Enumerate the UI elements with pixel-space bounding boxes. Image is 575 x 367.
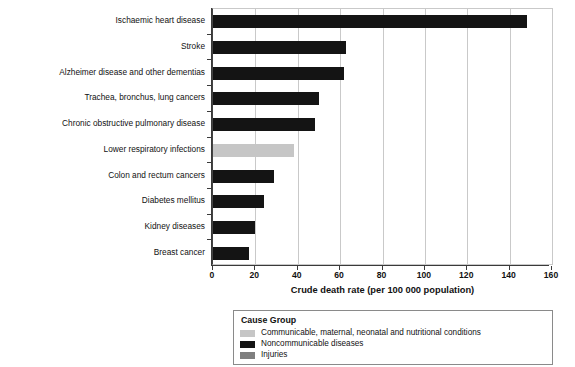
bar [213, 92, 319, 105]
legend-item: Communicable, maternal, neonatal and nut… [240, 328, 546, 338]
legend-label: Injuries [261, 351, 287, 359]
bar [213, 247, 249, 260]
legend-item: Injuries [240, 350, 546, 360]
bar-series [213, 9, 552, 264]
y-tick [207, 34, 211, 35]
category-label: Alzheimer disease and other dementias [0, 68, 205, 76]
bar [213, 144, 294, 157]
x-tick-label: 40 [292, 271, 302, 280]
legend-items: Communicable, maternal, neonatal and nut… [240, 328, 546, 360]
legend-label: Noncommunicable diseases [261, 340, 363, 348]
category-label: Colon and rectum cancers [0, 171, 205, 179]
x-tick-label: 0 [210, 271, 215, 280]
y-tick [207, 239, 211, 240]
category-label: Stroke [0, 42, 205, 50]
category-label: Kidney diseases [0, 222, 205, 230]
legend-swatch [240, 341, 255, 348]
y-tick [207, 137, 211, 138]
category-label: Chronic obstructive pulmonary disease [0, 119, 205, 127]
bar [213, 195, 264, 208]
y-tick [207, 59, 211, 60]
legend-label: Communicable, maternal, neonatal and nut… [261, 329, 481, 337]
bar [213, 67, 344, 80]
x-tick-label: 60 [334, 271, 344, 280]
legend-swatch [240, 352, 255, 359]
y-tick [207, 111, 211, 112]
gridline-160 [552, 9, 553, 264]
x-tick-label: 20 [250, 271, 260, 280]
chart-figure: Ischaemic heart diseaseStrokeAlzheimer d… [0, 0, 575, 367]
bar [213, 118, 315, 131]
legend-box: Cause Group Communicable, maternal, neon… [233, 310, 553, 365]
category-label: Breast cancer [0, 248, 205, 256]
y-axis-category-labels: Ischaemic heart diseaseStrokeAlzheimer d… [0, 8, 205, 265]
x-tick-label: 100 [417, 271, 431, 280]
legend-swatch [240, 330, 255, 337]
category-label: Ischaemic heart disease [0, 16, 205, 24]
legend-title: Cause Group [241, 315, 546, 325]
x-tick-label: 140 [501, 271, 515, 280]
bar [213, 221, 255, 234]
bar [213, 15, 527, 28]
category-label: Trachea, bronchus, lung cancers [0, 93, 205, 101]
y-tick [207, 162, 211, 163]
x-tick-label: 120 [459, 271, 473, 280]
legend-item: Noncommunicable diseases [240, 339, 546, 349]
bar [213, 41, 346, 54]
x-axis-line [211, 265, 549, 266]
x-tick-label: 80 [377, 271, 387, 280]
x-axis-title: Crude death rate (per 100 000 population… [212, 285, 553, 295]
category-label: Diabetes mellitus [0, 196, 205, 204]
y-tick [207, 188, 211, 189]
bar [213, 170, 274, 183]
plot-area [212, 8, 553, 265]
category-label: Lower respiratory infections [0, 145, 205, 153]
y-tick [207, 85, 211, 86]
x-tick-label: 160 [544, 271, 558, 280]
y-tick [207, 214, 211, 215]
